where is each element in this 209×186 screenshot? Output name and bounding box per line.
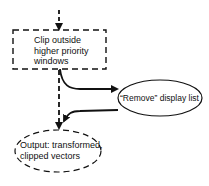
clip-label: Clip outside higher priority windows xyxy=(34,35,89,67)
flow-diagram: Clip outside higher priority windows “Re… xyxy=(0,0,209,186)
clip-to-remove-arrow xyxy=(60,69,117,89)
clip-label-line: higher priority xyxy=(34,46,89,57)
remove-to-output-arrow xyxy=(64,110,118,121)
remove-label: “Remove” display list xyxy=(120,93,199,104)
output-label-line: Output: transformed, xyxy=(20,140,103,151)
clip-label-line: Clip outside xyxy=(34,35,89,46)
output-label: Output: transformed, clipped vectors xyxy=(20,140,103,161)
clip-label-line: windows xyxy=(34,56,89,67)
output-label-line: clipped vectors xyxy=(20,151,103,162)
